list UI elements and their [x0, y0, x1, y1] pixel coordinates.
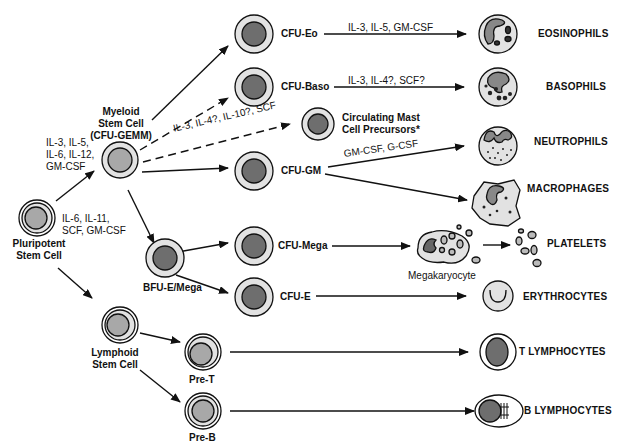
megakaryocyte-label: Megakaryocyte — [408, 270, 476, 282]
pluripotent-cell — [19, 200, 55, 236]
platelets-group — [516, 229, 541, 267]
cytokines-eo: IL-3, IL-5, GM-CSF — [348, 22, 433, 34]
cfu-e-label: CFU-E — [280, 291, 311, 303]
mast-label: Circulating Mast Cell Precursors* — [342, 112, 420, 136]
cfu-gm-cell — [235, 152, 273, 190]
platelets-label: PLATELETS — [547, 238, 606, 249]
neutrophils-label: NEUTROPHILS — [534, 136, 608, 147]
pre-b-label: Pre-B — [189, 432, 216, 444]
myeloid-label: Myeloid Stem Cell (CFU-GEMM) — [86, 106, 156, 142]
b-lymphocytes-label: B LYMPHOCYTES — [524, 405, 612, 416]
basophils-label: BASOPHILS — [546, 81, 606, 92]
erythrocyte-cell — [483, 281, 513, 311]
neutrophil-cell — [479, 127, 517, 165]
t-lymphocytes-label: T LYMPHOCYTES — [519, 346, 606, 357]
mast-cell — [302, 108, 334, 140]
pre-t-label: Pre-T — [189, 374, 215, 386]
megakaryocyte-cell — [418, 225, 481, 263]
macrophage-cell — [472, 180, 520, 226]
basophil-cell — [479, 68, 517, 106]
cfu-e-cell — [235, 278, 273, 316]
lymphoid-cell — [102, 307, 138, 343]
erythrocytes-label: ERYTHROCYTES — [523, 291, 607, 302]
cfu-eo-cell — [235, 15, 273, 53]
cfu-mega-label: CFU-Mega — [278, 240, 327, 252]
bfu-cell — [146, 239, 184, 277]
cytokines-to-myeloid: IL-3, IL-5, IL-6, IL-12, GM-CSF — [46, 137, 94, 173]
cfu-eo-label: CFU-Eo — [281, 28, 318, 40]
eosinophils-label: EOSINOPHILS — [538, 28, 609, 39]
cfu-mega-cell — [235, 227, 273, 265]
pre-b-cell — [185, 393, 221, 429]
macrophages-label: MACROPHAGES — [527, 183, 609, 194]
pluripotent-label: Pluripotent Stem Cell — [4, 238, 74, 262]
t-lymphocyte-cell — [480, 334, 516, 370]
cytokines-pluripotent: IL-6, IL-11, SCF, GM-CSF — [62, 213, 126, 237]
eosinophil-cell — [479, 15, 517, 53]
cytokines-baso: IL-3, IL-4?, SCF? — [348, 75, 425, 87]
bfu-e-mega-label: BFU-E/Mega — [143, 282, 202, 294]
cfu-gm-label: CFU-GM — [281, 165, 321, 177]
pre-t-cell — [185, 334, 221, 370]
lymphoid-label: Lymphoid Stem Cell — [80, 347, 150, 371]
b-lymphocyte-cell — [475, 395, 523, 427]
myeloid-cell — [102, 142, 138, 178]
cfu-baso-label: CFU-Baso — [281, 81, 329, 93]
